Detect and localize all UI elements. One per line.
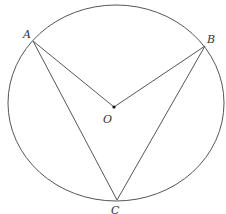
geometry-diagram: A B O C — [0, 0, 226, 214]
label-A: A — [22, 28, 31, 41]
label-C: C — [111, 204, 120, 214]
center-point-O — [112, 105, 115, 108]
label-B: B — [206, 33, 215, 46]
circle — [8, 5, 224, 201]
segment-OB — [114, 46, 205, 107]
segment-BC — [117, 46, 205, 200]
label-O: O — [103, 113, 112, 126]
segment-AO — [33, 41, 114, 107]
